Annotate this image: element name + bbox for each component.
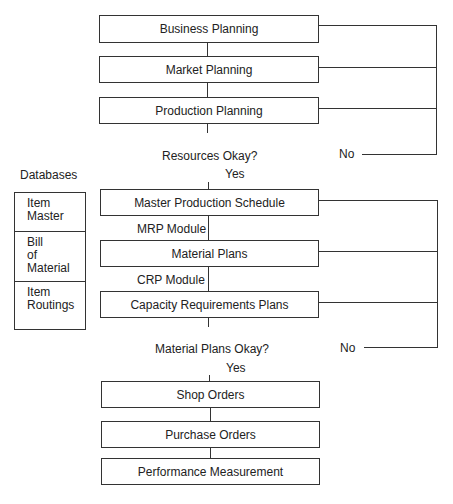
no-label-2: No — [340, 341, 355, 355]
production-planning-box: Production Planning — [99, 97, 319, 124]
connector-line — [210, 408, 211, 421]
business-planning-box: Business Planning — [99, 15, 319, 43]
connector-line — [208, 182, 209, 189]
connector-line — [208, 216, 209, 240]
performance-measurement-box: Performance Measurement — [101, 458, 320, 485]
databases-title: Databases — [20, 168, 77, 182]
feedback-line — [319, 25, 436, 26]
purchase-orders-label: Purchase Orders — [165, 428, 256, 442]
feedback-line — [319, 302, 437, 303]
feedback-line — [364, 347, 438, 348]
connector-line — [207, 43, 208, 56]
market-planning-box: Market Planning — [99, 56, 319, 83]
no-label-1: No — [339, 147, 354, 161]
db-item-routings: Item Routings — [15, 282, 85, 328]
performance-measurement-label: Performance Measurement — [138, 465, 283, 479]
crp-module-label: CRP Module — [137, 273, 205, 287]
connector-line — [208, 267, 209, 291]
mps-label: Master Production Schedule — [134, 196, 285, 210]
databases-box: Item Master Bill of Material Item Routin… — [14, 192, 86, 330]
capacity-requirements-plans-box: Capacity Requirements Plans — [100, 291, 319, 318]
feedback-line — [436, 25, 437, 155]
shop-orders-label: Shop Orders — [176, 388, 244, 402]
yes-label-1: Yes — [225, 167, 245, 181]
feedback-line — [437, 200, 438, 348]
master-production-schedule-box: Master Production Schedule — [100, 189, 319, 216]
db-item-master: Item Master — [15, 193, 85, 232]
material-plans-box: Material Plans — [100, 240, 319, 267]
business-planning-label: Business Planning — [160, 22, 259, 36]
resources-okay-label: Resources Okay? — [162, 149, 257, 163]
db-bill-of-material: Bill of Material — [15, 232, 85, 282]
mrp-module-label: MRP Module — [137, 222, 206, 236]
feedback-line — [362, 154, 437, 155]
feedback-line — [319, 200, 437, 201]
production-planning-label: Production Planning — [155, 104, 262, 118]
connector-line — [208, 318, 209, 327]
purchase-orders-box: Purchase Orders — [101, 421, 320, 448]
material-plans-label: Material Plans — [171, 247, 247, 261]
material-plans-okay-label: Material Plans Okay? — [155, 342, 269, 356]
feedback-line — [319, 67, 436, 68]
connector-line — [207, 124, 208, 133]
shop-orders-box: Shop Orders — [101, 381, 320, 408]
crp-label: Capacity Requirements Plans — [130, 298, 288, 312]
feedback-line — [319, 108, 436, 109]
connector-line — [210, 448, 211, 458]
market-planning-label: Market Planning — [166, 63, 253, 77]
connector-line — [207, 83, 208, 97]
feedback-line — [319, 251, 437, 252]
yes-label-2: Yes — [226, 361, 246, 375]
